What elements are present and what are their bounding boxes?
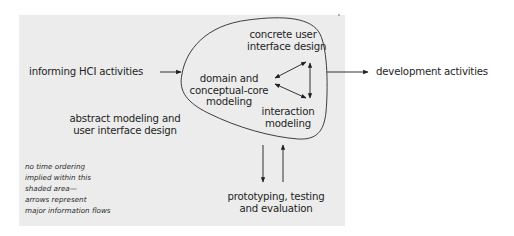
arrow-domain-concrete [275, 62, 306, 78]
note-line-2: implied within this [25, 172, 111, 183]
arrow-domain-interaction [275, 84, 306, 98]
prototyping-testing-label: prototyping, testing and evaluation [221, 191, 331, 214]
development-activities-label: development activities [376, 66, 488, 78]
concrete-line-1: concrete user [247, 29, 319, 41]
concrete-ui-design-label: concrete user interface design [247, 29, 319, 52]
domain-conceptual-core-label: domain and conceptual-core modeling [188, 73, 270, 108]
prototyping-line-1: prototyping, testing [221, 191, 331, 203]
informing-label-text: informing HCI activities [29, 66, 143, 77]
time-ordering-note: no time ordering implied within this sha… [25, 161, 111, 216]
development-label-text: development activities [376, 66, 488, 77]
informing-hci-activities-label: informing HCI activities [29, 66, 143, 78]
abstract-line-2: user interface design [62, 125, 188, 137]
concrete-line-2: interface design [247, 41, 319, 53]
interaction-line-1: interaction [257, 106, 319, 118]
domain-line-2: conceptual-core [188, 85, 270, 97]
note-line-5: major information flows [25, 205, 111, 216]
interaction-line-2: modeling [257, 118, 319, 130]
diagram-canvas: informing HCI activities development act… [0, 0, 514, 236]
abstract-line-1: abstract modeling and [62, 113, 188, 125]
prototyping-line-2: and evaluation [221, 203, 331, 215]
note-line-4: arrows represent [25, 194, 111, 205]
note-line-1: no time ordering [25, 161, 111, 172]
abstract-modeling-label: abstract modeling and user interface des… [62, 113, 188, 136]
interaction-modeling-label: interaction modeling [257, 106, 319, 129]
domain-line-1: domain and [188, 73, 270, 85]
note-line-3: shaded area— [25, 183, 111, 194]
